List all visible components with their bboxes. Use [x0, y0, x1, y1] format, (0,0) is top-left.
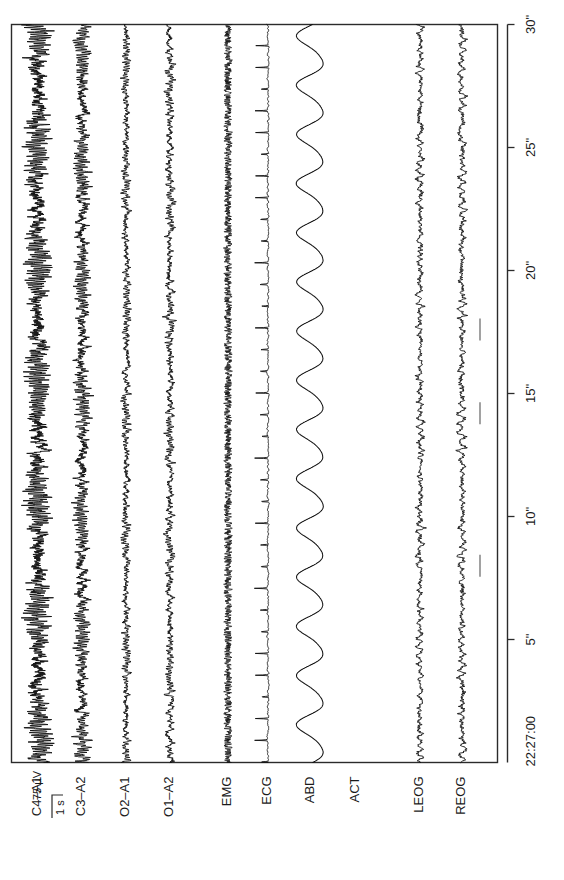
- time-tick-label: 20": [523, 261, 538, 280]
- calibration-amplitude-label: 75 µV: [31, 770, 43, 800]
- time-tick-label: 30": [523, 15, 538, 34]
- channel-label-ecg: ECG: [259, 777, 274, 805]
- calibration-time-label: 1 s: [54, 800, 66, 815]
- channel-label-o2-a1: O2–A1: [117, 777, 132, 817]
- channel-label-reog: REOG: [453, 777, 468, 815]
- channel-label-o1-a2: O1–A2: [161, 777, 176, 817]
- time-tick-label: 25": [523, 138, 538, 157]
- channel-label-abd: ABD: [302, 777, 317, 804]
- epoch-start-time-label: 22:27:00: [523, 716, 538, 767]
- psg-figure: 5"10"15"20"25"30"22:27:00 C4–A1C3–A2O2–A…: [0, 0, 564, 880]
- time-tick-label: 15": [523, 384, 538, 403]
- time-tick-label: 5": [523, 633, 538, 645]
- time-tick-label: 10": [523, 507, 538, 526]
- channel-label-act: ACT: [347, 776, 362, 802]
- channel-label-emg: EMG: [219, 777, 234, 807]
- psg-plot-canvas: 5"10"15"20"25"30"22:27:00 C4–A1C3–A2O2–A…: [0, 0, 564, 880]
- channel-label-c3-a2: C3–A2: [73, 777, 88, 817]
- channel-label-leog: LEOG: [411, 777, 426, 813]
